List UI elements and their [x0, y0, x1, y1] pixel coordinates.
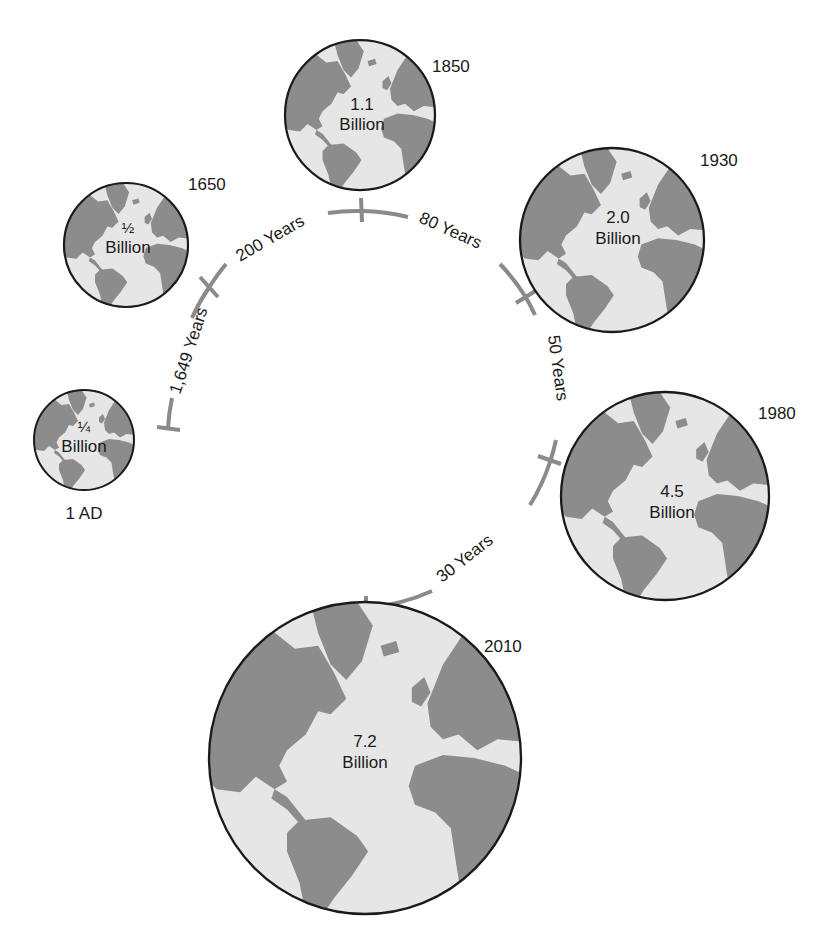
- interval-label-1649: 1,649 Years: [166, 305, 212, 396]
- population-unit: Billion: [339, 115, 384, 134]
- population-amount: ¼: [78, 418, 91, 435]
- year-label: 1980: [758, 404, 796, 423]
- population-amount: 2.0: [606, 208, 630, 227]
- timeline-ticks: [157, 198, 561, 620]
- globe-1650: ½ Billion 1650: [61, 175, 226, 310]
- population-amount: 1.1: [350, 95, 374, 114]
- year-label: 1930: [700, 151, 738, 170]
- year-label: 1 AD: [66, 504, 103, 523]
- population-unit: Billion: [105, 238, 150, 257]
- population-timeline-diagram: 1,649 Years 200 Years 80 Years 50 Years …: [0, 0, 835, 936]
- globe-2010: 7.2 Billion 2010: [201, 602, 529, 922]
- globe-1930: 2.0 Billion 1930: [515, 148, 737, 337]
- population-unit: Billion: [649, 503, 694, 522]
- svg-text:200 Years: 200 Years: [233, 211, 308, 265]
- year-label: 1850: [432, 57, 470, 76]
- interval-label-200: 200 Years: [233, 211, 308, 265]
- globe-1850: 1.1 Billion 1850: [281, 40, 470, 194]
- tick-1850: [361, 198, 362, 222]
- interval-label-50: 50 Years: [544, 334, 572, 402]
- svg-text:50 Years: 50 Years: [544, 334, 572, 402]
- svg-text:30 Years: 30 Years: [433, 530, 497, 586]
- interval-label-30: 30 Years: [433, 530, 497, 586]
- globe-1980: 4.5 Billion 1980: [556, 392, 796, 605]
- year-label: 1650: [188, 175, 226, 194]
- svg-text:80 Years: 80 Years: [416, 208, 484, 252]
- year-label: 2010: [484, 637, 522, 656]
- population-unit: Billion: [61, 437, 106, 456]
- population-amount: 4.5: [660, 482, 684, 501]
- population-unit: Billion: [342, 753, 387, 772]
- globe-1ad: ¼ Billion 1 AD: [32, 390, 137, 523]
- population-amount: ½: [122, 219, 135, 236]
- population-amount: 7.2: [353, 732, 377, 751]
- population-unit: Billion: [595, 229, 640, 248]
- timeline-arc: [168, 211, 556, 608]
- tick-1ad: [157, 427, 180, 430]
- interval-label-80: 80 Years: [416, 208, 484, 252]
- svg-text:1,649 Years: 1,649 Years: [166, 305, 212, 396]
